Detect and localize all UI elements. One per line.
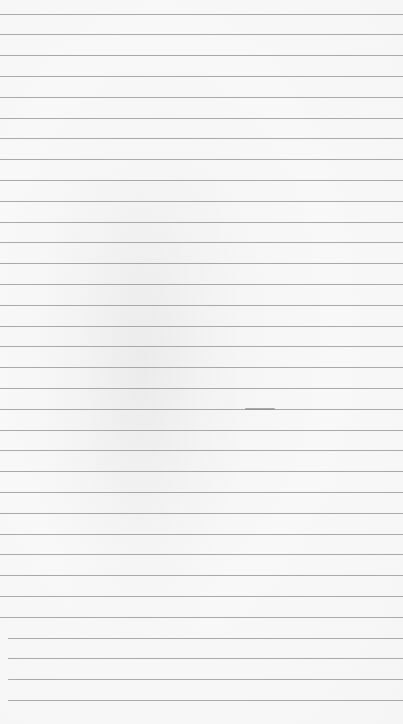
ruled-line [0,159,403,160]
ruled-line [0,76,403,77]
ruled-line [8,658,403,659]
ruled-line [8,700,403,701]
ruled-line [0,326,403,327]
ruled-line [0,263,403,264]
ruled-line [0,388,403,389]
ruled-line [0,222,403,223]
ruled-line [0,305,403,306]
ruled-line [8,638,403,639]
ruled-line [8,679,403,680]
ruled-line [0,242,403,243]
ruled-line [0,575,403,576]
ruled-line [0,492,403,493]
ruled-line [0,596,403,597]
lined-paper [0,0,403,724]
ruled-line [0,430,403,431]
faded-statue-watermark [40,180,240,660]
ruled-line [0,450,403,451]
ruled-line [0,284,403,285]
ruled-line [0,617,403,618]
ruled-line [0,346,403,347]
ruled-line [0,409,403,410]
ruled-line [0,180,403,181]
ruled-line [0,513,403,514]
ruled-line [0,34,403,35]
ruled-line [0,534,403,535]
ruled-line [0,138,403,139]
ruled-line [0,14,403,15]
ruled-line [0,367,403,368]
pencil-mark [245,408,275,410]
ruled-line [0,97,403,98]
ruled-line [0,118,403,119]
ruled-line [0,55,403,56]
ruled-line [0,554,403,555]
ruled-line [0,471,403,472]
ruled-line [0,201,403,202]
